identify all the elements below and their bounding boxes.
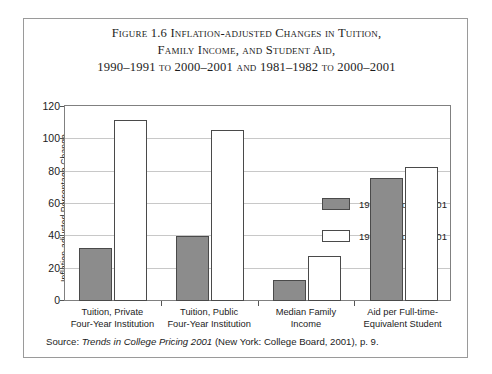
x-category-line: Tuition, Public (161, 307, 258, 319)
source-title: Trends in College Pricing 2001 (82, 336, 212, 347)
x-category-line: Income (258, 319, 355, 331)
source-rest: (New York: College Board, 2001), p. 9. (212, 336, 378, 347)
bar-4-series-1[interactable] (370, 178, 403, 301)
bar-1-series-1[interactable] (79, 248, 112, 301)
bar-chart: Inflation-adjusted Percentage Change 020… (24, 19, 469, 359)
x-axis-category-labels: Tuition, PrivateFour-Year InstitutionTui… (64, 307, 451, 337)
x-category-line: Four-Year Institution (64, 319, 161, 331)
x-tick-mark-2 (258, 301, 259, 306)
source-note: Source: Trends in College Pricing 2001 (… (46, 335, 466, 348)
x-category-line: Aid per Full-time- (354, 307, 451, 319)
x-tick-mark-1 (161, 301, 162, 306)
bar-group-2 (162, 106, 259, 301)
bars-layer (65, 106, 450, 301)
x-category-line: Four-Year Institution (161, 319, 258, 331)
bar-group-4 (355, 106, 452, 301)
bar-2-series-2[interactable] (211, 130, 244, 301)
bar-group-1 (65, 106, 162, 301)
x-category-line: Median Family (258, 307, 355, 319)
bar-1-series-2[interactable] (114, 120, 147, 301)
bar-group-3 (259, 106, 356, 301)
y-axis-tick-marks (24, 105, 68, 301)
x-category-line: Equivalent Student (354, 319, 451, 331)
bar-3-series-2[interactable] (308, 256, 341, 301)
figure-box: Figure 1.6 Inflation-adjusted Changes in… (23, 18, 468, 358)
x-category-label-4: Aid per Full-time-Equivalent Student (354, 307, 451, 330)
x-tick-mark-3 (354, 301, 355, 306)
bar-2-series-1[interactable] (176, 236, 209, 301)
bar-3-series-1[interactable] (273, 280, 306, 301)
x-category-label-3: Median FamilyIncome (258, 307, 355, 330)
x-category-line: Tuition, Private (64, 307, 161, 319)
bar-4-series-2[interactable] (405, 167, 438, 301)
x-category-label-2: Tuition, PublicFour-Year Institution (161, 307, 258, 330)
x-category-label-1: Tuition, PrivateFour-Year Institution (64, 307, 161, 330)
source-prefix: Source: (46, 336, 82, 347)
